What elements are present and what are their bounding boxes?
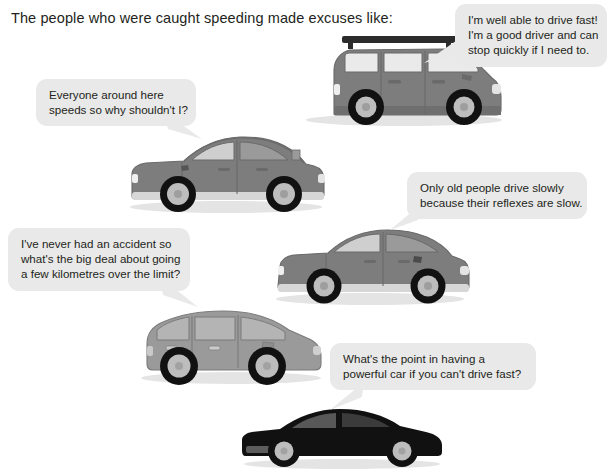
bubble-line: what's the big deal about going [21, 251, 178, 266]
car-illustration-sedan [122, 124, 330, 216]
illustration-canvas: The people who were caught speeding made… [0, 0, 611, 471]
bubble-line: powerful car if you can't drive fast? [343, 366, 524, 381]
speech-bubble-suv: I'm well able to drive fast! I'm a good … [455, 4, 607, 67]
speech-bubble-tail-sedan [164, 112, 204, 142]
bubble-line: I'm a good driver and can [468, 27, 595, 42]
page-heading: The people who were caught speeding made… [11, 9, 393, 27]
car-illustration-coupe [268, 218, 472, 308]
bubble-line: I've never had an accident so [21, 236, 178, 251]
speech-bubble-coupe: Only old people drive slowly because the… [407, 172, 587, 219]
bubble-line: Everyone around here [49, 87, 184, 102]
car-illustration-hatchback [135, 298, 331, 388]
bubble-line: stop quickly if I need to. [468, 42, 595, 57]
speech-bubble-tail-sportscar [330, 382, 366, 412]
bubble-line: Only old people drive slowly [420, 180, 575, 195]
speech-bubble-tail-suv [424, 34, 466, 64]
speech-bubble-tail-hatchback [160, 277, 200, 309]
bubble-line: What's the point in having a [343, 351, 524, 366]
bubble-line: a few kilometres over the limit? [21, 266, 178, 281]
bubble-line: because their reflexes are slow. [420, 195, 575, 210]
speech-bubble-tail-coupe [390, 205, 422, 231]
bubble-line: I'm well able to drive fast! [468, 12, 595, 27]
